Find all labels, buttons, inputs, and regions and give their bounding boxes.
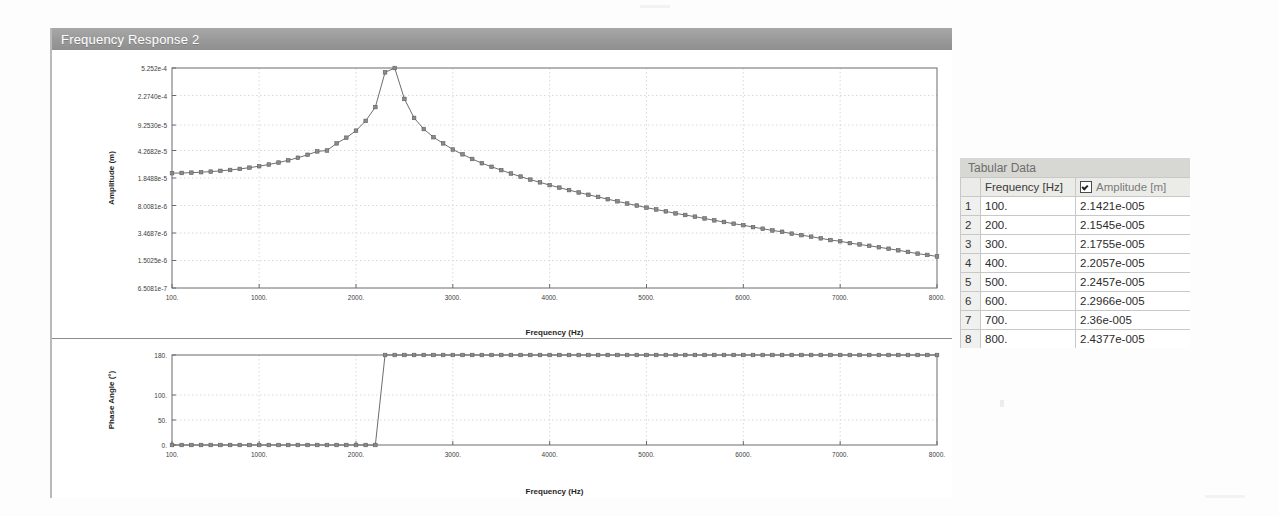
cell-amplitude[interactable]: 2.1755e-005 xyxy=(1076,235,1191,254)
tabular-data-table[interactable]: Frequency [Hz] Amplitude [m] 1100.2.1421… xyxy=(960,177,1190,348)
svg-text:6.5081e-7: 6.5081e-7 xyxy=(138,285,168,292)
series-line xyxy=(172,355,937,445)
row-index[interactable]: 8 xyxy=(961,330,981,349)
svg-text:5000.: 5000. xyxy=(638,294,654,301)
amplitude-column-checkbox[interactable] xyxy=(1080,181,1092,193)
svg-text:100.: 100. xyxy=(166,294,179,301)
x-axis-label: Frequency (Hz) xyxy=(526,328,584,337)
svg-text:0.: 0. xyxy=(162,442,168,449)
svg-text:3000.: 3000. xyxy=(445,451,461,458)
table-row[interactable]: 5500.2.2457e-005 xyxy=(961,273,1191,292)
svg-text:6000.: 6000. xyxy=(735,294,751,301)
row-index[interactable]: 2 xyxy=(961,216,981,235)
svg-text:8.0081e-6: 8.0081e-6 xyxy=(138,203,168,210)
y-axis-label: Amplitude (m) xyxy=(107,151,116,205)
phase-plot[interactable]: 0.50.100.180.100.1000.2000.3000.4000.500… xyxy=(52,339,952,497)
svg-text:5.252e-4: 5.252e-4 xyxy=(141,65,167,72)
svg-text:100.: 100. xyxy=(166,451,179,458)
cell-amplitude[interactable]: 2.2966e-005 xyxy=(1076,292,1191,311)
table-row[interactable]: 4400.2.2057e-005 xyxy=(961,254,1191,273)
column-header-index[interactable] xyxy=(961,178,981,197)
svg-text:4000.: 4000. xyxy=(542,451,558,458)
gridlines xyxy=(172,355,937,445)
plot-stack: 5.252e-42.2740e-49.2530e-54.2682e-51.848… xyxy=(52,50,952,498)
column-header-frequency[interactable]: Frequency [Hz] xyxy=(981,178,1076,197)
svg-text:180.: 180. xyxy=(154,352,167,359)
row-index[interactable]: 5 xyxy=(961,273,981,292)
column-header-amplitude[interactable]: Amplitude [m] xyxy=(1076,178,1191,197)
row-index[interactable]: 6 xyxy=(961,292,981,311)
cell-frequency[interactable]: 700. xyxy=(981,311,1076,330)
cell-amplitude[interactable]: 2.36e-005 xyxy=(1076,311,1191,330)
scan-artifact xyxy=(640,5,670,8)
table-row[interactable]: 7700.2.36e-005 xyxy=(961,311,1191,330)
row-index[interactable]: 7 xyxy=(961,311,981,330)
cell-frequency[interactable]: 800. xyxy=(981,330,1076,349)
table-row[interactable]: 6600.2.2966e-005 xyxy=(961,292,1191,311)
column-header-amplitude-label: Amplitude [m] xyxy=(1096,181,1166,193)
series-markers xyxy=(170,66,939,258)
cell-frequency[interactable]: 500. xyxy=(981,273,1076,292)
table-row[interactable]: 1100.2.1421e-005 xyxy=(961,197,1191,216)
plot-frame xyxy=(172,68,937,288)
table-row[interactable]: 2200.2.1545e-005 xyxy=(961,216,1191,235)
page-title: Frequency Response 2 xyxy=(61,32,199,47)
amplitude-plot[interactable]: 5.252e-42.2740e-49.2530e-54.2682e-51.848… xyxy=(52,50,952,338)
svg-text:3.4687e-6: 3.4687e-6 xyxy=(138,230,168,237)
svg-text:1.8488e-5: 1.8488e-5 xyxy=(138,175,168,182)
table-header-row: Frequency [Hz] Amplitude [m] xyxy=(961,178,1191,197)
scan-artifact xyxy=(1000,400,1004,407)
svg-text:1000.: 1000. xyxy=(251,294,267,301)
table-body[interactable]: 1100.2.1421e-0052200.2.1545e-0053300.2.1… xyxy=(961,197,1191,349)
svg-text:8000.: 8000. xyxy=(929,294,945,301)
y-axis-label: Phase Angle (°) xyxy=(107,370,116,429)
cell-frequency[interactable]: 300. xyxy=(981,235,1076,254)
table-row[interactable]: 8800.2.4377e-005 xyxy=(961,330,1191,349)
svg-text:1000.: 1000. xyxy=(251,451,267,458)
row-index[interactable]: 1 xyxy=(961,197,981,216)
cell-amplitude[interactable]: 2.2057e-005 xyxy=(1076,254,1191,273)
table-row[interactable]: 3300.2.1755e-005 xyxy=(961,235,1191,254)
svg-text:5000.: 5000. xyxy=(638,451,654,458)
svg-text:2.2740e-4: 2.2740e-4 xyxy=(138,93,168,100)
svg-text:7000.: 7000. xyxy=(832,451,848,458)
svg-text:2000.: 2000. xyxy=(348,294,364,301)
cell-frequency[interactable]: 100. xyxy=(981,197,1076,216)
window-titlebar: Frequency Response 2 xyxy=(52,28,952,50)
graphics-window: Frequency Response 2 5.252e-42.2740e-49.… xyxy=(50,28,952,498)
tabular-data-title: Tabular Data xyxy=(968,161,1036,175)
svg-text:7000.: 7000. xyxy=(832,294,848,301)
svg-text:1.5025e-6: 1.5025e-6 xyxy=(138,257,168,264)
phase-plot-svg: 0.50.100.180.100.1000.2000.3000.4000.500… xyxy=(52,339,952,497)
tabular-data-header: Tabular Data xyxy=(960,158,1190,177)
cell-frequency[interactable]: 600. xyxy=(981,292,1076,311)
cell-amplitude[interactable]: 2.1421e-005 xyxy=(1076,197,1191,216)
gridlines xyxy=(172,68,937,288)
x-axis-label: Frequency (Hz) xyxy=(526,487,584,496)
svg-text:8000.: 8000. xyxy=(929,451,945,458)
svg-text:2000.: 2000. xyxy=(348,451,364,458)
scan-artifact xyxy=(1205,495,1245,498)
cell-amplitude[interactable]: 2.2457e-005 xyxy=(1076,273,1191,292)
cell-frequency[interactable]: 200. xyxy=(981,216,1076,235)
row-index[interactable]: 3 xyxy=(961,235,981,254)
series-markers xyxy=(170,353,939,447)
svg-text:9.2530e-5: 9.2530e-5 xyxy=(138,122,168,129)
svg-text:50.: 50. xyxy=(158,417,167,424)
svg-text:4000.: 4000. xyxy=(542,294,558,301)
amplitude-plot-svg: 5.252e-42.2740e-49.2530e-54.2682e-51.848… xyxy=(52,50,952,338)
row-index[interactable]: 4 xyxy=(961,254,981,273)
tabular-data-panel[interactable]: Tabular Data Frequency [Hz] Amplitude [m… xyxy=(960,158,1190,348)
svg-text:6000.: 6000. xyxy=(735,451,751,458)
svg-text:4.2682e-5: 4.2682e-5 xyxy=(138,148,168,155)
cell-frequency[interactable]: 400. xyxy=(981,254,1076,273)
svg-text:100.: 100. xyxy=(154,392,167,399)
cell-amplitude[interactable]: 2.1545e-005 xyxy=(1076,216,1191,235)
svg-text:3000.: 3000. xyxy=(445,294,461,301)
plot-frame xyxy=(172,355,937,445)
cell-amplitude[interactable]: 2.4377e-005 xyxy=(1076,330,1191,349)
